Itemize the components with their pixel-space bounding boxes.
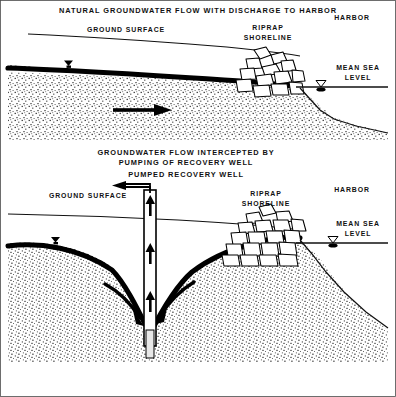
well-screen bbox=[146, 330, 154, 358]
panel-intercepted-flow: GROUNDWATER FLOW INTERCEPTED BY PUMPING … bbox=[0, 148, 396, 370]
mean-sea-level-label-2-line2: LEVEL bbox=[345, 230, 372, 237]
riprap-label-1-line1: RIPRAP bbox=[252, 24, 283, 31]
riprap-label-1-line2: SHORELINE bbox=[244, 34, 292, 41]
panel-2-title-line1: GROUNDWATER FLOW INTERCEPTED BY bbox=[97, 148, 274, 157]
mean-sea-level-label-1-line1: MEAN SEA bbox=[336, 64, 380, 71]
ground-surface-label-2: GROUND SURFACE bbox=[49, 192, 127, 199]
panel-2-title-line3: PUMPED RECOVERY WELL bbox=[128, 170, 244, 179]
soil-body-2 bbox=[0, 230, 396, 370]
mean-sea-level-symbol-1 bbox=[316, 81, 326, 92]
soil-body-1 bbox=[0, 60, 396, 150]
harbor-label-2: HARBOR bbox=[334, 186, 370, 193]
riprap-label-2-line2: SHORELINE bbox=[242, 200, 290, 207]
harbor-label-1: HARBOR bbox=[334, 14, 370, 21]
groundwater-flow-figure: NATURAL GROUNDWATER FLOW WITH DISCHARGE … bbox=[0, 0, 396, 397]
riprap-label-2-line1: RIPRAP bbox=[250, 190, 281, 197]
water-table-symbol-1 bbox=[64, 61, 73, 68]
mean-sea-level-label-1-line2: LEVEL bbox=[345, 74, 372, 81]
water-table-symbol-2 bbox=[51, 237, 60, 244]
discharge-arrow bbox=[112, 181, 126, 190]
mean-sea-level-symbol-2 bbox=[328, 237, 338, 248]
mean-sea-level-label-2-line1: MEAN SEA bbox=[336, 220, 380, 227]
panel-1-title: NATURAL GROUNDWATER FLOW WITH DISCHARGE … bbox=[59, 6, 337, 15]
panel-natural-flow: NATURAL GROUNDWATER FLOW WITH DISCHARGE … bbox=[0, 6, 396, 150]
panel-2-title-line2: PUMPING OF RECOVERY WELL bbox=[119, 158, 254, 167]
riprap-mound-2 bbox=[222, 204, 306, 266]
ground-surface-label-1: GROUND SURFACE bbox=[87, 26, 165, 33]
